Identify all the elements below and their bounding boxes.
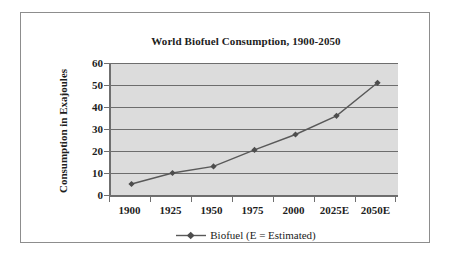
- x-axis-tick-label: 2025E: [314, 204, 355, 216]
- y-axis-tick-label: 20: [81, 146, 103, 157]
- series-line: [132, 83, 378, 184]
- chart-title: World Biofuel Consumption, 1900-2050: [81, 35, 411, 47]
- gridline: [111, 195, 398, 196]
- x-axis-tick-label: 1975: [232, 204, 273, 216]
- x-axis-tick-label: 1950: [191, 204, 232, 216]
- x-axis-tick-mark: [355, 197, 356, 202]
- x-axis-tick-mark: [109, 197, 110, 202]
- x-axis-tick-mark: [232, 197, 233, 202]
- legend-entry-label: Biofuel (E = Estimated): [210, 229, 315, 241]
- y-axis-tick-label: 40: [81, 102, 103, 113]
- data-point-marker: [292, 131, 298, 137]
- x-axis-tick-marks: [109, 197, 396, 202]
- x-axis-tick-mark: [273, 197, 274, 202]
- y-axis-title: Consumption in Exajoules: [57, 56, 69, 206]
- x-axis-tick-mark: [314, 197, 315, 202]
- x-axis-tick-mark: [191, 197, 192, 202]
- data-point-marker: [210, 163, 216, 169]
- chart-frame: World Biofuel Consumption, 1900-2050 Con…: [20, 12, 430, 243]
- x-axis-tick-label: 2000: [273, 204, 314, 216]
- x-axis-tick-label: 1925: [150, 204, 191, 216]
- series-biofuel: [111, 63, 398, 195]
- chart-legend: Biofuel (E = Estimated): [81, 229, 411, 241]
- x-axis-tick-label: 2050E: [355, 204, 396, 216]
- data-point-marker: [251, 147, 257, 153]
- y-axis-tick-labels: 6050403020100: [79, 63, 103, 195]
- chart-page: World Biofuel Consumption, 1900-2050 Con…: [0, 0, 452, 262]
- y-axis-tick-label: 30: [81, 124, 103, 135]
- x-axis-tick-labels: 190019251950197520002025E2050E: [109, 204, 396, 220]
- y-axis-tick-label: 50: [81, 80, 103, 91]
- y-axis-tick-label: 0: [81, 190, 103, 201]
- y-axis-tick-label: 10: [81, 168, 103, 179]
- plot-area: [109, 63, 398, 197]
- y-axis-tick-label: 60: [81, 58, 103, 69]
- x-axis-tick-label: 1900: [109, 204, 150, 216]
- data-point-marker: [169, 170, 175, 176]
- data-point-marker: [128, 181, 134, 187]
- x-axis-tick-mark: [150, 197, 151, 202]
- x-axis-tick-mark: [395, 197, 396, 202]
- legend-line-marker-icon: [176, 231, 206, 240]
